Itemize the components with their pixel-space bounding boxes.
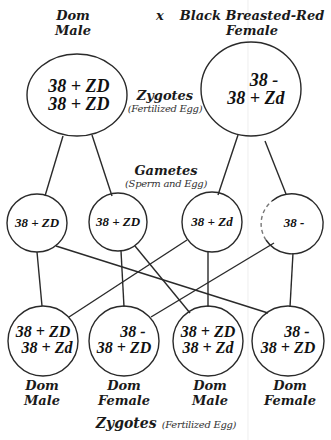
genetics-cross-diagram: Dom Male x Black Breasted-Red Female 38 … [0,0,331,440]
offspring-2-label-line2: Female [98,393,150,408]
female-parent-label: Black Breasted-Red Female [180,8,325,38]
female-label-line1: Black Breasted-Red [180,8,325,23]
line-male-to-gamete-1 [45,136,63,196]
offspring-1-label-line1: Dom [24,378,60,393]
offspring-genotype-3: 38 + ZD 38 + Zd [181,324,235,356]
offspring-genotype-2: 38 - 38 + ZD [97,324,151,356]
zygotes-bottom-title: Zygotes [96,415,157,431]
offspring-genotype-4: 38 - 38 + ZD [261,324,315,356]
female-parent-genotype: 38 - 38 + Zd [227,71,284,107]
offspring-1-genotype-line2: 38 + Zd [14,340,73,356]
gamete-genotype-4: 38 - [284,216,305,230]
gamete-genotype-3: 38 + Zd [191,215,232,229]
line-g1-to-o1 [37,252,42,306]
offspring-2-genotype-line2: 38 + ZD [97,340,151,356]
offspring-label-3: Dom Male [192,378,228,408]
offspring-1-label-line2: Male [24,393,60,408]
male-genotype-line2: 38 + ZD [48,95,109,113]
female-label-line2: Female [180,23,325,38]
gamete-genotype-1: 38 + ZD [15,216,59,230]
gametes-subtitle: (Sperm and Egg) [125,178,207,190]
gamete-genotype-2: 38 + ZD [96,215,140,229]
line-female-to-gamete-4 [265,141,286,194]
offspring-3-genotype-line1: 38 + ZD [181,324,235,340]
gamete-circle-4-faded-edge [261,201,272,240]
female-genotype-line1: 38 - [227,71,284,89]
offspring-label-2: Dom Female [98,378,150,408]
male-genotype-line1: 38 + ZD [48,77,109,95]
zygotes-bottom-label: Zygotes (Fertilized Egg) [96,413,236,432]
offspring-2-label-line1: Dom [98,378,150,393]
offspring-3-label-line1: Dom [192,378,228,393]
female-genotype-line2: 38 + Zd [227,89,284,107]
offspring-2-genotype-line1: 38 - [97,324,151,340]
zygotes-top-title: Zygotes [128,88,203,103]
gametes-title: Gametes [125,163,207,178]
zygotes-top-subtitle: (Fertilized Egg) [128,103,203,115]
line-g4-to-o4 [290,253,293,307]
male-parent-genotype: 38 + ZD 38 + ZD [48,77,109,113]
male-label-line1: Dom [55,8,91,23]
offspring-4-genotype-line1: 38 - [261,324,315,340]
zygotes-bottom-subtitle: (Fertilized Egg) [162,419,237,430]
line-g2-to-o2 [121,251,124,307]
offspring-genotype-1: 38 + ZD 38 + Zd [14,324,73,356]
offspring-1-genotype-line1: 38 + ZD [14,324,73,340]
offspring-4-genotype-line2: 38 + ZD [261,340,315,356]
offspring-label-1: Dom Male [24,378,60,408]
gametes-label: Gametes (Sperm and Egg) [125,163,207,190]
line-female-to-gamete-3 [218,135,238,195]
offspring-4-label-line1: Dom [264,378,316,393]
offspring-3-label-line2: Male [192,393,228,408]
male-label-line2: Male [55,23,91,38]
offspring-label-4: Dom Female [264,378,316,408]
cross-symbol: x [156,8,164,23]
line-male-to-gamete-2 [92,135,112,196]
offspring-3-genotype-line2: 38 + Zd [181,340,235,356]
zygotes-top-label: Zygotes (Fertilized Egg) [128,88,203,115]
offspring-4-label-line2: Female [264,393,316,408]
male-parent-label: Dom Male [55,8,91,38]
